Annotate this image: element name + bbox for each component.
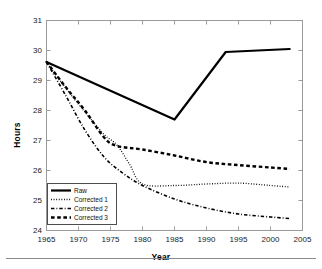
x-tick-label: 1990: [198, 236, 216, 244]
x-tick-label: 1975: [102, 236, 120, 244]
y-tick-label: 29: [22, 77, 42, 85]
legend-swatch-dotted-icon: [50, 195, 72, 204]
x-tick-label: 1995: [230, 236, 248, 244]
x-tick-label: 2000: [262, 236, 280, 244]
figure-chart-hours-vs-year: 2425262728293031 19651970197519801985199…: [0, 0, 322, 269]
plot-canvas: [0, 0, 322, 269]
y-tick-label: 27: [22, 137, 42, 145]
legend-item-raw[interactable]: Raw: [50, 186, 113, 195]
legend-swatch-dashdot-icon: [50, 204, 72, 213]
legend-swatch-dashed-icon: [50, 213, 72, 222]
y-tick-label: 31: [22, 17, 42, 25]
legend-label: Raw: [74, 187, 87, 194]
y-tick-label: 25: [22, 197, 42, 205]
legend-label: Corrected 1: [74, 196, 108, 203]
legend-item-corrected-3[interactable]: Corrected 3: [50, 213, 113, 222]
legend-item-corrected-1[interactable]: Corrected 1: [50, 195, 113, 204]
legend-label: Corrected 2: [74, 205, 108, 212]
y-tick-label: 30: [22, 47, 42, 55]
legend-swatch-solid-icon: [50, 186, 72, 195]
y-tick-label: 28: [22, 107, 42, 115]
x-tick-label: 1980: [134, 236, 152, 244]
x-tick-label: 1970: [70, 236, 88, 244]
y-tick-label: 26: [22, 167, 42, 175]
x-tick-label: 1965: [38, 236, 56, 244]
chart-legend[interactable]: RawCorrected 1Corrected 2Corrected 3: [47, 183, 117, 225]
caption-divider: [6, 258, 316, 259]
x-tick-label: 1985: [166, 236, 184, 244]
legend-label: Corrected 3: [74, 214, 108, 221]
legend-item-corrected-2[interactable]: Corrected 2: [50, 204, 113, 213]
y-tick-label: 24: [22, 227, 42, 235]
x-tick-label: 2005: [294, 236, 312, 244]
x-axis-title: Year: [0, 252, 322, 262]
y-axis-title: Hours: [12, 122, 22, 148]
